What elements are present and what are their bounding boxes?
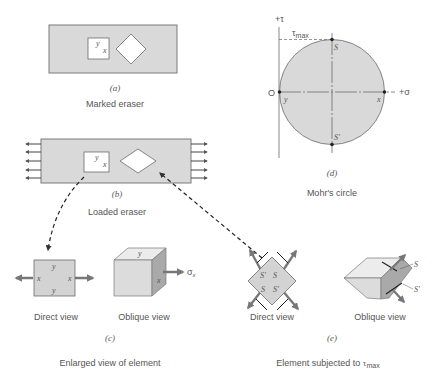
- oblique-label-S-prime: S': [414, 285, 420, 294]
- point-origin: [278, 90, 282, 94]
- panel-d-mohrs-circle: +τ +σ O τmax S S' y x (d) Mohr's circle: [268, 14, 410, 198]
- eraser-body: [49, 25, 177, 73]
- sigma-x-label: σx: [187, 267, 197, 278]
- direct-label-left-x: x: [36, 274, 41, 283]
- direct-view-caption: Direct view: [34, 312, 79, 322]
- oblique-view-caption: Oblique view: [354, 312, 406, 322]
- point-x: [383, 90, 387, 94]
- square-label-y: y: [95, 39, 100, 48]
- shear-label-2: S: [273, 271, 277, 280]
- point-y-label: y: [283, 95, 288, 104]
- point-x-label: x: [376, 95, 381, 104]
- panel-a-label: (a): [110, 83, 121, 93]
- panel-c-enlarged-view: y y x x Direct view y x σx Oblique view …: [16, 248, 197, 368]
- eraser-body: [41, 139, 191, 183]
- point-S: [330, 38, 334, 42]
- oblique-label-top-y: y: [137, 249, 142, 258]
- panel-b-loaded-eraser: y x (b) Loaded eraser: [26, 139, 207, 217]
- direct-label-top-y: y: [51, 262, 56, 271]
- pointer-arrow-to-diamond: [160, 173, 262, 258]
- pointer-arrow-to-square: [48, 177, 84, 250]
- oblique-view-cube: y x σx: [114, 248, 197, 296]
- oblique-view-caption: Oblique view: [118, 312, 170, 322]
- oblique-view-prism: S S': [344, 255, 420, 302]
- sigma-axis-label: +σ: [399, 87, 410, 97]
- square-label-x: x: [102, 46, 107, 55]
- point-S-label: S: [334, 43, 338, 52]
- panel-e-tau-max-element: S' S S S' Direct view S S' Oblique view …: [248, 250, 420, 369]
- direct-view-diamond: S' S S S': [248, 250, 298, 310]
- panel-e-caption: Element subjected to τmax: [276, 358, 380, 369]
- direct-view-caption: Direct view: [250, 312, 295, 322]
- cube-front-face: [114, 260, 152, 296]
- panel-e-label: (e): [327, 333, 337, 343]
- panel-d-caption: Mohr's circle: [307, 188, 357, 198]
- origin-label: O: [268, 88, 275, 98]
- panel-d-label: (d): [327, 168, 338, 178]
- shear-label-1: S': [260, 271, 266, 280]
- point-S-prime-label: S': [334, 133, 340, 142]
- point-S-prime: [330, 143, 334, 147]
- shear-label-4: S': [273, 285, 279, 294]
- square-label-y: y: [94, 153, 99, 162]
- panel-a-caption: Marked eraser: [86, 99, 144, 109]
- tau-max-label: τmax: [292, 28, 309, 39]
- direct-label-right-x: x: [67, 274, 72, 283]
- panel-b-caption: Loaded eraser: [88, 207, 146, 217]
- direct-label-bottom-y: y: [51, 286, 56, 295]
- prism-front-face: [344, 278, 381, 299]
- panel-c-caption: Enlarged view of element: [59, 358, 161, 368]
- principal-arrow-down: [393, 290, 404, 302]
- leader-S-prime: [403, 284, 413, 289]
- stress-diagram: y x (a) Marked eraser +τ +σ O τmax S S' …: [0, 0, 435, 374]
- load-arrows-right: [191, 144, 207, 178]
- direct-view-square: y y x x: [16, 260, 93, 296]
- oblique-label-side-x: x: [156, 276, 161, 285]
- oblique-label-S: S: [414, 260, 418, 269]
- tau-axis-label: +τ: [275, 14, 284, 24]
- panel-b-label: (b): [112, 189, 123, 199]
- square-label-x: x: [102, 160, 107, 169]
- panel-c-label: (c): [105, 333, 115, 343]
- panel-a-marked-eraser: y x (a) Marked eraser: [49, 25, 177, 109]
- load-arrows-left: [26, 144, 41, 178]
- shear-label-3: S: [261, 285, 265, 294]
